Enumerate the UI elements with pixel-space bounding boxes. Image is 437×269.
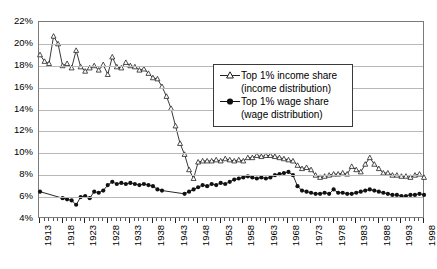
data-point-marker [377,190,381,194]
data-point-marker [128,181,132,185]
x-tick-minor [251,218,252,221]
x-tick-label: 1918 [66,225,76,246]
data-point-marker [97,191,101,195]
x-tick-label: 1958 [246,225,256,246]
x-tick-minor [202,218,203,221]
data-point-marker [38,52,43,57]
x-tick-major [62,218,63,223]
x-tick-major [333,218,334,223]
x-tick-minor [301,218,302,221]
x-tick-minor [53,218,54,221]
x-tick-minor [66,218,67,221]
x-tick-label: 1968 [291,225,301,246]
gridline [39,175,423,176]
data-point-marker [106,183,110,187]
x-tick-major [423,218,424,223]
data-point-marker [201,183,205,187]
x-tick-label: 1993 [404,225,414,246]
data-point-marker [74,203,78,207]
x-tick-minor [351,218,352,221]
x-tick-major [287,218,288,223]
data-point-marker [417,192,421,196]
data-point-marker [332,187,336,191]
x-tick-major [152,218,153,223]
x-tick-label: 1943 [179,225,189,246]
x-tick-minor [75,218,76,221]
x-tick-minor [319,218,320,221]
data-point-marker [214,157,219,162]
x-tick-minor [44,218,45,221]
y-tick-label: 14% [14,104,33,114]
x-tick-minor [143,218,144,221]
x-tick-label: 1973 [314,225,324,246]
data-point-marker [372,188,376,192]
x-tick-minor [418,218,419,221]
data-point-marker [146,183,150,187]
x-tick-major [242,218,243,223]
x-tick-minor [269,218,270,221]
x-tick-minor [391,218,392,221]
x-tick-major [378,218,379,223]
x-tick-label: 1948 [201,225,211,246]
x-tick-minor [165,218,166,221]
data-point-marker [160,188,164,192]
x-tick-minor [211,218,212,221]
x-tick-minor [156,218,157,221]
x-tick-label: 1988 [382,225,392,246]
data-point-marker [363,188,367,192]
legend-sublabel-wage: (wage distribution) [219,108,347,121]
x-tick-minor [138,218,139,221]
x-tick-minor [260,218,261,221]
x-tick-minor [292,218,293,221]
x-tick-minor [256,218,257,221]
x-tick-minor [278,218,279,221]
data-point-marker [164,94,169,99]
gridline [39,153,423,154]
x-tick-minor [233,218,234,221]
x-tick-minor [71,218,72,221]
data-point-marker [350,192,354,196]
x-tick-minor [382,218,383,221]
data-point-marker [38,190,42,194]
x-tick-minor [306,218,307,221]
data-point-marker [304,165,309,170]
x-tick-minor [247,218,248,221]
x-tick-major [175,218,176,223]
x-tick-minor [328,218,329,221]
x-tick-minor [238,218,239,221]
x-tick-label: 1963 [269,225,279,246]
x-tick-minor [414,218,415,221]
x-tick-label: 1998 [427,225,437,246]
x-tick-minor [369,218,370,221]
x-tick-label: 1923 [88,225,98,246]
x-tick-minor [373,218,374,221]
x-tick-minor [364,218,365,221]
data-point-marker [323,191,327,195]
x-tick-minor [346,218,347,221]
data-point-marker [142,182,146,186]
data-point-marker [110,180,114,184]
data-point-marker [368,187,372,191]
data-point-marker [214,183,218,187]
data-point-marker [354,191,358,195]
x-tick-minor [283,218,284,221]
data-point-marker [141,66,146,71]
x-tick-minor [224,218,225,221]
x-tick-major [129,218,130,223]
x-tick-minor [161,218,162,221]
x-tick-minor [188,218,189,221]
data-point-marker [264,176,268,180]
data-point-marker [223,182,227,186]
y-tick-label: 4% [19,213,33,223]
data-point-marker [345,192,349,196]
y-tick-label: 18% [14,60,33,70]
x-tick-minor [125,218,126,221]
y-tick-label: 20% [14,38,33,48]
y-tick-label: 8% [19,169,33,179]
data-point-marker [300,188,304,192]
data-point-marker [196,185,200,189]
gridline [39,44,423,45]
data-point-marker [151,184,155,188]
legend-item-income: Top 1% income share [219,69,347,82]
data-point-marker [381,191,385,195]
